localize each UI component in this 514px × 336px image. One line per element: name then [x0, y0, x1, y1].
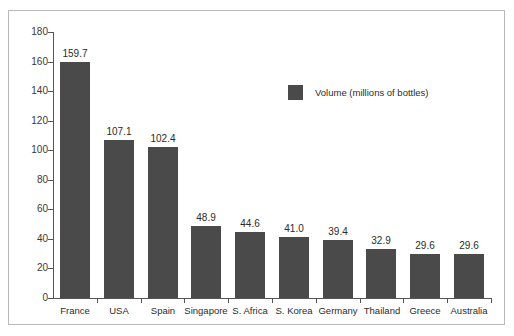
x-axis-category-label: Thailand: [360, 305, 404, 317]
x-axis-category-label: Greece: [403, 305, 447, 317]
x-axis-category-label: Australia: [447, 305, 491, 317]
bar-value-label: 41.0: [269, 223, 319, 234]
y-axis-tick-label: 40: [8, 234, 48, 244]
y-axis-tick-label: 160: [8, 57, 48, 67]
y-axis-tick-label: 120: [8, 116, 48, 126]
y-axis-tick-mark: [48, 239, 53, 240]
bar[interactable]: [410, 254, 440, 298]
legend-color-swatch-icon: [288, 85, 303, 100]
y-axis-tick-label: 140: [8, 86, 48, 96]
x-axis-tick-mark: [97, 298, 98, 303]
x-axis-category-label: USA: [97, 305, 141, 317]
bar-value-label: 44.6: [225, 218, 275, 229]
x-axis-tick-mark: [403, 298, 404, 303]
bar[interactable]: [454, 254, 484, 298]
y-axis-tick-label-wrap: 120: [0, 116, 48, 126]
legend-label: Volume (millions of bottles): [315, 87, 429, 98]
bar-value-label: 29.6: [444, 240, 494, 251]
x-axis-tick-mark: [184, 298, 185, 303]
y-axis-tick-mark: [48, 209, 53, 210]
y-axis-tick-label-wrap: 80: [0, 175, 48, 185]
y-axis-tick-label: 180: [8, 27, 48, 37]
y-axis-tick-label-wrap: 100: [0, 145, 48, 155]
x-axis-tick-mark: [491, 298, 492, 303]
x-axis-tick-mark: [447, 298, 448, 303]
y-axis-tick-label: 0: [8, 293, 48, 303]
bar[interactable]: [148, 147, 178, 298]
y-axis-tick-mark: [48, 150, 53, 151]
y-axis-tick-label: 60: [8, 204, 48, 214]
bar[interactable]: [235, 232, 265, 298]
y-axis-tick-label: 20: [8, 263, 48, 273]
x-axis-tick-mark: [228, 298, 229, 303]
y-axis-tick-mark: [48, 91, 53, 92]
x-axis-category-label: Singapore: [184, 305, 228, 317]
chart-legend: Volume (millions of bottles): [288, 85, 429, 100]
bar-value-label: 102.4: [138, 133, 188, 144]
bar-value-label: 159.7: [50, 48, 100, 59]
y-axis-tick-label-wrap: 40: [0, 234, 48, 244]
y-axis-tick-mark: [48, 32, 53, 33]
bar[interactable]: [366, 249, 396, 298]
y-axis-tick-label: 80: [8, 175, 48, 185]
bar[interactable]: [104, 140, 134, 298]
y-axis-tick-label-wrap: 60: [0, 204, 48, 214]
y-axis-tick-mark: [48, 121, 53, 122]
y-axis-line: [53, 32, 54, 299]
x-axis-category-label: Germany: [316, 305, 360, 317]
bar[interactable]: [60, 62, 90, 298]
y-axis-tick-mark: [48, 62, 53, 63]
x-axis-tick-mark: [272, 298, 273, 303]
y-axis-tick-mark: [48, 180, 53, 181]
x-axis-category-label: S. Korea: [272, 305, 316, 317]
x-axis-tick-mark: [141, 298, 142, 303]
bar-chart-plot-area: 180160140120100806040200 159.7107.1102.4…: [0, 0, 514, 336]
y-axis-tick-mark: [48, 298, 53, 299]
x-axis-tick-mark: [316, 298, 317, 303]
bar-value-label: 32.9: [356, 235, 406, 246]
x-axis-tick-mark: [360, 298, 361, 303]
y-axis-tick-label: 100: [8, 145, 48, 155]
bar-value-label: 48.9: [181, 212, 231, 223]
y-axis-tick-label-wrap: 20: [0, 263, 48, 273]
y-axis-tick-label-wrap: 180: [0, 27, 48, 37]
x-axis-category-label: France: [53, 305, 97, 317]
bar[interactable]: [323, 240, 353, 298]
y-axis-tick-label-wrap: 160: [0, 57, 48, 67]
x-axis-category-label: Spain: [141, 305, 185, 317]
y-axis-tick-label-wrap: 0: [0, 293, 48, 303]
bar[interactable]: [191, 226, 221, 298]
bar-value-label: 29.6: [400, 240, 450, 251]
x-axis-category-label: S. Africa: [228, 305, 272, 317]
bar[interactable]: [279, 237, 309, 298]
bar-value-label: 107.1: [94, 126, 144, 137]
y-axis-tick-label-wrap: 140: [0, 86, 48, 96]
y-axis-tick-mark: [48, 268, 53, 269]
